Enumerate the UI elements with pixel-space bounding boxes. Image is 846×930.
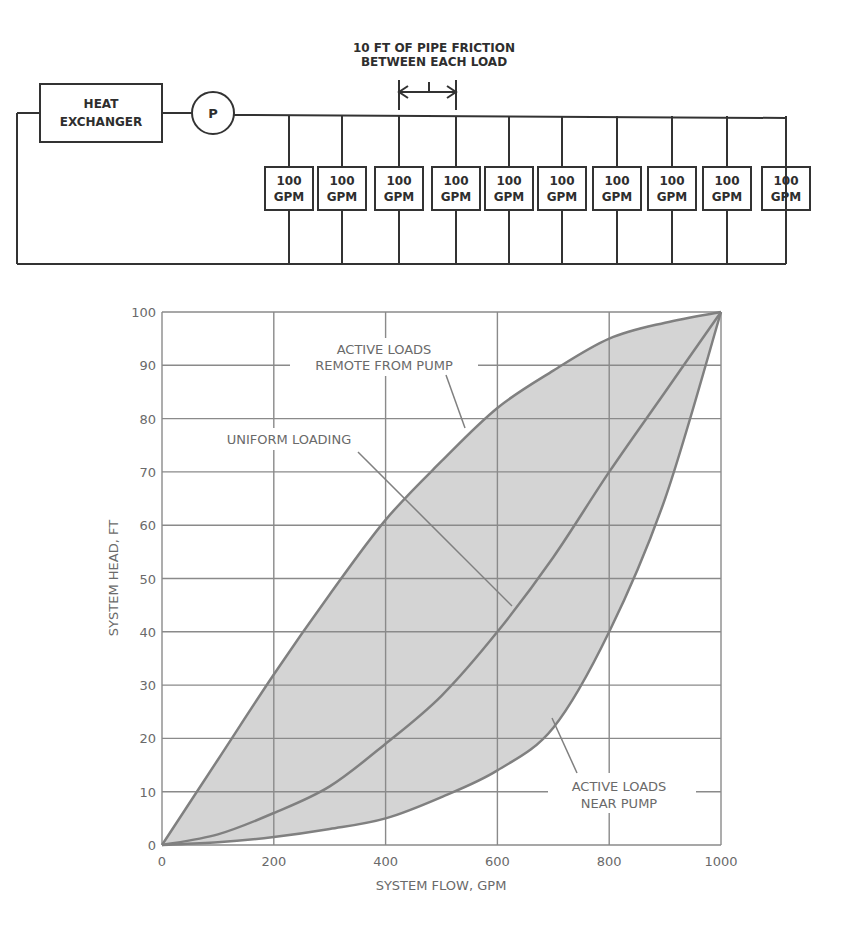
y-tick-label: 80 — [139, 412, 156, 427]
load-label-flow: 100 — [773, 174, 798, 188]
x-tick-label: 1000 — [704, 854, 737, 869]
annotation-near-line1: ACTIVE LOADS — [572, 779, 667, 794]
y-tick-label: 60 — [139, 518, 156, 533]
x-tick-label: 400 — [373, 854, 398, 869]
y-tick-label: 0 — [148, 838, 156, 853]
pump-label: P — [208, 106, 218, 121]
friction-note-line2: BETWEEN EACH LOAD — [361, 55, 507, 69]
load-label-unit: GPM — [657, 190, 688, 204]
annotation-near-line2: NEAR PUMP — [581, 796, 658, 811]
load-label-unit: GPM — [494, 190, 525, 204]
y-tick-label: 40 — [139, 625, 156, 640]
annotation-remote-line2: REMOTE FROM PUMP — [315, 358, 453, 373]
load-label-flow: 100 — [276, 174, 301, 188]
y-axis-label: SYSTEM HEAD, FT — [106, 520, 121, 636]
y-tick-label: 30 — [139, 678, 156, 693]
y-tick-label: 70 — [139, 465, 156, 480]
figure-canvas: HEAT EXCHANGER P 10 FT OF PIPE FRICTION … — [0, 0, 846, 930]
x-tick-label: 200 — [261, 854, 286, 869]
friction-note-line1: 10 FT OF PIPE FRICTION — [353, 41, 515, 55]
x-tick-label: 800 — [597, 854, 622, 869]
heat-exchanger-label-1: HEAT — [84, 97, 120, 111]
leader-remote — [446, 375, 465, 428]
load-label-flow: 100 — [386, 174, 411, 188]
schematic-labels: HEAT EXCHANGER P 10 FT OF PIPE FRICTION … — [60, 41, 802, 204]
load-label-unit: GPM — [771, 190, 802, 204]
system-head-chart: 020040060080010000102030405060708090100 … — [106, 305, 738, 893]
annotation-uniform: UNIFORM LOADING — [227, 432, 351, 447]
piping-schematic — [17, 80, 810, 264]
annotation-remote-line1: ACTIVE LOADS — [337, 342, 432, 357]
load-label-unit: GPM — [384, 190, 415, 204]
load-label-unit: GPM — [712, 190, 743, 204]
load-label-flow: 100 — [604, 174, 629, 188]
x-axis-label: SYSTEM FLOW, GPM — [376, 878, 507, 893]
heat-exchanger-label-2: EXCHANGER — [60, 115, 143, 129]
load-label-unit: GPM — [547, 190, 578, 204]
load-label-flow: 100 — [549, 174, 574, 188]
load-label-flow: 100 — [496, 174, 521, 188]
leader-near — [552, 718, 577, 773]
y-tick-label: 100 — [131, 305, 156, 320]
load-label-flow: 100 — [329, 174, 354, 188]
x-tick-label: 600 — [485, 854, 510, 869]
load-label-unit: GPM — [602, 190, 633, 204]
load-label-unit: GPM — [327, 190, 358, 204]
y-tick-label: 20 — [139, 731, 156, 746]
load-label-flow: 100 — [659, 174, 684, 188]
y-tick-label: 50 — [139, 572, 156, 587]
load-label-unit: GPM — [274, 190, 305, 204]
load-label-flow: 100 — [443, 174, 468, 188]
heat-exchanger-box — [40, 84, 162, 142]
y-tick-label: 10 — [139, 785, 156, 800]
y-tick-label: 90 — [139, 358, 156, 373]
load-label-flow: 100 — [714, 174, 739, 188]
x-tick-label: 0 — [158, 854, 166, 869]
load-label-unit: GPM — [441, 190, 472, 204]
